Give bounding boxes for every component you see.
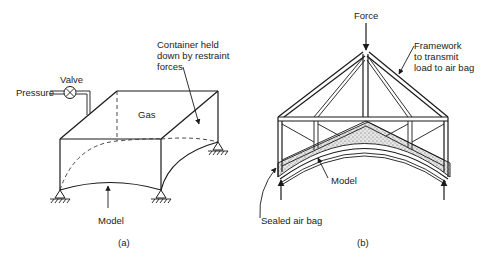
- container-label-1: Container held: [157, 39, 219, 50]
- model-label-b: Model: [331, 175, 357, 186]
- support-middle: [151, 190, 171, 203]
- model-arrow-b: [318, 158, 328, 178]
- framework-arrow: [399, 46, 414, 74]
- framework-label-2: to transmit: [414, 51, 459, 62]
- container-label-3: forces: [157, 61, 183, 72]
- valve-label: Valve: [60, 74, 83, 85]
- air-bag-arrow: [260, 168, 276, 218]
- framework-label-1: Framework: [414, 40, 462, 51]
- force-label: Force: [354, 10, 378, 21]
- figure-a: Pressure Valve Gas Container held down b…: [16, 39, 230, 248]
- model-label-a: Model: [98, 215, 124, 226]
- pressure-label: Pressure: [16, 87, 54, 98]
- container-arrow: [183, 67, 199, 124]
- gas-label: Gas: [138, 109, 156, 120]
- support-left: [50, 190, 70, 203]
- air-bag-label: Sealed air bag: [261, 215, 322, 226]
- figure-b: Force Framework to transmit load to air …: [260, 10, 474, 248]
- caption-b: (b): [357, 237, 369, 248]
- framework-label-3: load to air bag: [414, 62, 474, 73]
- valve: [50, 87, 90, 116]
- caption-a: (a): [118, 237, 130, 248]
- container-label-2: down by restraint: [157, 50, 230, 61]
